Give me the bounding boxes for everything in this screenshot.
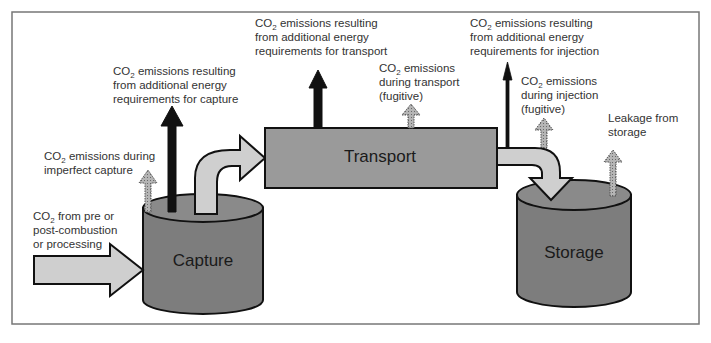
- svg-text:or processing: or processing: [33, 238, 102, 250]
- ccs-emissions-diagram: Capture Transport Storage CO2 from pre o…: [0, 0, 711, 343]
- svg-text:requirements for capture: requirements for capture: [113, 93, 238, 105]
- label-energy-capture: CO2 emissions resulting from additional …: [113, 65, 238, 105]
- svg-text:from additional energy: from additional energy: [255, 31, 369, 43]
- svg-text:post-combustion: post-combustion: [33, 224, 117, 236]
- svg-text:during injection: during injection: [521, 89, 598, 101]
- transport-label: Transport: [344, 147, 416, 166]
- svg-text:Leakage from: Leakage from: [608, 112, 678, 124]
- storage-cylinder: Storage: [517, 180, 631, 307]
- svg-text:imperfect capture: imperfect capture: [44, 164, 133, 176]
- svg-text:requirements for injection: requirements for injection: [470, 45, 599, 57]
- svg-text:storage: storage: [608, 126, 646, 138]
- svg-text:during transport: during transport: [379, 76, 460, 88]
- label-energy-transport: CO2 emissions resulting from additional …: [255, 17, 388, 57]
- storage-label: Storage: [544, 243, 604, 262]
- svg-text:(fugitive): (fugitive): [379, 90, 423, 102]
- transport-box: Transport: [265, 128, 497, 188]
- svg-text:from additional energy: from additional energy: [470, 31, 584, 43]
- svg-text:from additional energy: from additional energy: [113, 79, 227, 91]
- capture-label: Capture: [173, 251, 233, 270]
- svg-text:(fugitive): (fugitive): [521, 103, 565, 115]
- label-energy-injection: CO2 emissions resulting from additional …: [470, 17, 599, 57]
- svg-text:requirements for transport: requirements for transport: [255, 45, 388, 57]
